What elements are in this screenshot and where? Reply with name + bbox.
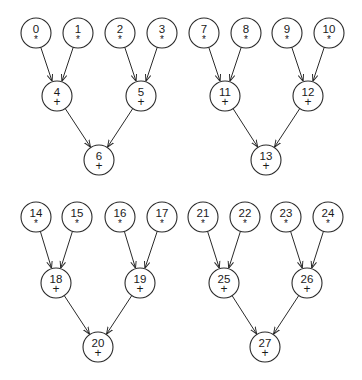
multiply-operator-icon: * [285, 34, 289, 45]
node-2: 2* [105, 18, 135, 48]
node-id-label: 24 [322, 207, 335, 219]
node-25: 25+ [209, 268, 239, 298]
node-id-label: 3 [159, 23, 165, 35]
node-3: 3* [147, 18, 177, 48]
node-27: 27+ [250, 332, 280, 362]
node-20: 20+ [83, 332, 113, 362]
add-operator-icon: + [94, 346, 101, 360]
edge-16-to-19 [124, 231, 135, 268]
node-8: 8* [231, 18, 261, 48]
multiply-operator-icon: * [75, 218, 79, 229]
tree-d-nodes: 21*22*23*24*25+26+27+ [188, 202, 343, 362]
multiply-operator-icon: * [160, 218, 164, 229]
node-id-label: 2 [117, 23, 123, 35]
node-16: 16* [105, 202, 135, 232]
edge-24-to-26 [312, 231, 324, 268]
add-operator-icon: + [261, 346, 268, 360]
edge-19-to-20 [107, 296, 132, 335]
tree-c-nodes: 14*15*16*17*18+19+20+ [21, 202, 177, 362]
node-22: 22* [230, 202, 260, 232]
edge-14-to-18 [40, 231, 51, 268]
edge-17-to-19 [145, 231, 157, 268]
edge-10-to-12 [313, 47, 324, 81]
dataflow-diagram: 0*1*2*3*4+5+6+7*8*9*10*11+12+13+14*15*16… [0, 0, 362, 380]
tree-b-nodes: 7*8*9*10*11+12+13+ [189, 18, 344, 175]
edge-22-to-25 [229, 231, 241, 268]
add-operator-icon: + [304, 95, 311, 109]
node-21: 21* [188, 202, 218, 232]
multiply-operator-icon: * [201, 218, 205, 229]
node-26: 26+ [292, 268, 322, 298]
multiply-operator-icon: * [76, 34, 80, 45]
multiply-operator-icon: * [284, 218, 288, 229]
edge-1-to-4 [62, 47, 73, 81]
add-operator-icon: + [95, 159, 102, 173]
add-operator-icon: + [52, 282, 59, 296]
node-18: 18+ [41, 268, 71, 298]
multiply-operator-icon: * [202, 34, 206, 45]
tree-a-nodes: 0*1*2*3*4+5+6+ [21, 18, 177, 175]
edges-layer [40, 47, 324, 334]
node-10: 10* [314, 18, 344, 48]
nodes-layer: 0*1*2*3*4+5+6+7*8*9*10*11+12+13+14*15*16… [21, 18, 344, 362]
add-operator-icon: + [303, 282, 310, 296]
node-5: 5+ [126, 81, 156, 111]
multiply-operator-icon: * [34, 218, 38, 229]
multiply-operator-icon: * [326, 218, 330, 229]
multiply-operator-icon: * [34, 34, 38, 45]
node-id-label: 21 [197, 207, 210, 219]
edge-12-to-13 [275, 109, 300, 147]
node-id-label: 8 [243, 23, 249, 35]
edge-2-to-5 [125, 47, 136, 81]
node-12: 12+ [293, 81, 323, 111]
edge-25-to-27 [232, 296, 257, 334]
edge-18-to-20 [64, 296, 89, 335]
edge-3-to-5 [146, 47, 157, 81]
node-id-label: 1 [75, 23, 81, 35]
add-operator-icon: + [53, 95, 60, 109]
node-23: 23* [271, 202, 301, 232]
node-11: 11+ [210, 81, 240, 111]
edge-21-to-25 [208, 231, 220, 268]
multiply-operator-icon: * [118, 218, 122, 229]
add-operator-icon: + [221, 95, 228, 109]
node-13: 13+ [251, 145, 281, 175]
multiply-operator-icon: * [160, 34, 164, 45]
node-6: 6+ [84, 145, 114, 175]
multiply-operator-icon: * [244, 34, 248, 45]
node-19: 19+ [125, 268, 155, 298]
edge-15-to-18 [61, 231, 73, 268]
node-14: 14* [21, 202, 51, 232]
node-id-label: 14 [30, 207, 43, 219]
node-id-label: 0 [33, 23, 39, 35]
multiply-operator-icon: * [243, 218, 247, 229]
node-0: 0* [21, 18, 51, 48]
edge-7-to-11 [209, 47, 220, 81]
node-1: 1* [63, 18, 93, 48]
node-4: 4+ [42, 81, 72, 111]
node-id-label: 16 [114, 207, 127, 219]
node-9: 9* [272, 18, 302, 48]
node-id-label: 9 [284, 23, 290, 35]
edge-23-to-26 [291, 231, 303, 268]
edge-0-to-4 [41, 47, 52, 81]
edge-11-to-13 [233, 109, 258, 147]
edge-8-to-11 [230, 47, 241, 81]
edge-5-to-6 [108, 109, 133, 147]
node-id-label: 10 [323, 23, 336, 35]
node-id-label: 23 [280, 207, 293, 219]
edge-26-to-27 [274, 296, 299, 335]
multiply-operator-icon: * [118, 34, 122, 45]
node-id-label: 22 [239, 207, 252, 219]
node-15: 15* [62, 202, 92, 232]
multiply-operator-icon: * [327, 34, 331, 45]
node-id-label: 15 [71, 207, 84, 219]
add-operator-icon: + [220, 282, 227, 296]
node-17: 17* [147, 202, 177, 232]
edge-9-to-12 [292, 47, 303, 81]
node-24: 24* [313, 202, 343, 232]
edge-4-to-6 [65, 109, 90, 147]
node-id-label: 7 [201, 23, 207, 35]
node-id-label: 17 [156, 207, 169, 219]
add-operator-icon: + [137, 95, 144, 109]
